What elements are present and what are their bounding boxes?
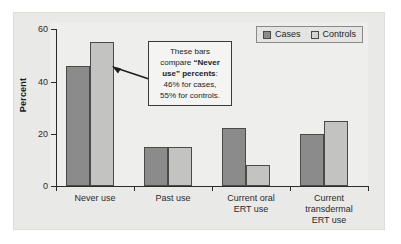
callout-line-1: These bars [170, 47, 210, 56]
never-use-callout: These bars compare “Never use” percents:… [148, 41, 232, 106]
callout-line-5: 55% for controls. [160, 91, 220, 100]
chart-legend: Cases Controls [256, 26, 363, 43]
x-label-line: Past use [134, 193, 212, 204]
x-tick-0 [56, 186, 57, 191]
y-tick-label-40: 40 [18, 78, 48, 87]
bar-never-use-cases [66, 66, 90, 186]
x-label-line: Current oral [212, 193, 290, 204]
bar-never-use-controls [90, 42, 114, 186]
legend-item-controls: Controls [311, 30, 357, 39]
y-axis-title: Percent [18, 65, 28, 125]
x-label-line: ERT use [212, 204, 290, 215]
y-tick-label-60: 60 [18, 25, 48, 34]
x-label-current-oral: Current oral ERT use [212, 193, 290, 215]
legend-swatch-cases-icon [263, 31, 271, 39]
bar-current-oral-cases [222, 128, 246, 186]
x-label-never-use: Never use [56, 193, 134, 204]
x-label-line: Current [290, 193, 368, 204]
legend-item-cases: Cases [263, 30, 301, 39]
bar-current-oral-controls [246, 165, 270, 186]
y-tick-label-20: 20 [18, 130, 48, 139]
callout-line-3-plain: : [216, 69, 218, 78]
legend-swatch-controls-icon [311, 31, 319, 39]
y-tick-60 [51, 29, 56, 30]
x-label-line: transdermal [290, 204, 368, 215]
callout-line-3-bold: use” percents [162, 69, 215, 78]
x-tick-3 [290, 186, 291, 191]
x-label-current-transdermal: Current transdermal ERT use [290, 193, 368, 226]
x-tick-4 [368, 186, 369, 191]
x-label-line: Never use [56, 193, 134, 204]
callout-line-2-plain: compare [160, 58, 193, 67]
bar-current-transdermal-controls [324, 121, 348, 186]
y-axis-line [56, 29, 57, 187]
x-label-line: ERT use [290, 215, 368, 226]
x-tick-2 [212, 186, 213, 191]
callout-line-2-bold: “Never [194, 58, 220, 67]
x-tick-1 [134, 186, 135, 191]
bar-past-use-cases [144, 147, 168, 186]
bar-chart-figure: Percent 60 40 20 0 Never use Past use Cu… [0, 0, 401, 244]
legend-label-cases: Cases [275, 30, 301, 39]
y-tick-20 [51, 134, 56, 135]
callout-line-4: 46% for cases, [164, 80, 217, 89]
bar-past-use-controls [168, 147, 192, 186]
y-tick-label-0: 0 [18, 182, 48, 191]
y-tick-40 [51, 82, 56, 83]
bar-current-transdermal-cases [300, 134, 324, 186]
legend-label-controls: Controls [323, 30, 357, 39]
x-label-past-use: Past use [134, 193, 212, 204]
callout-arrow-icon [112, 65, 150, 81]
